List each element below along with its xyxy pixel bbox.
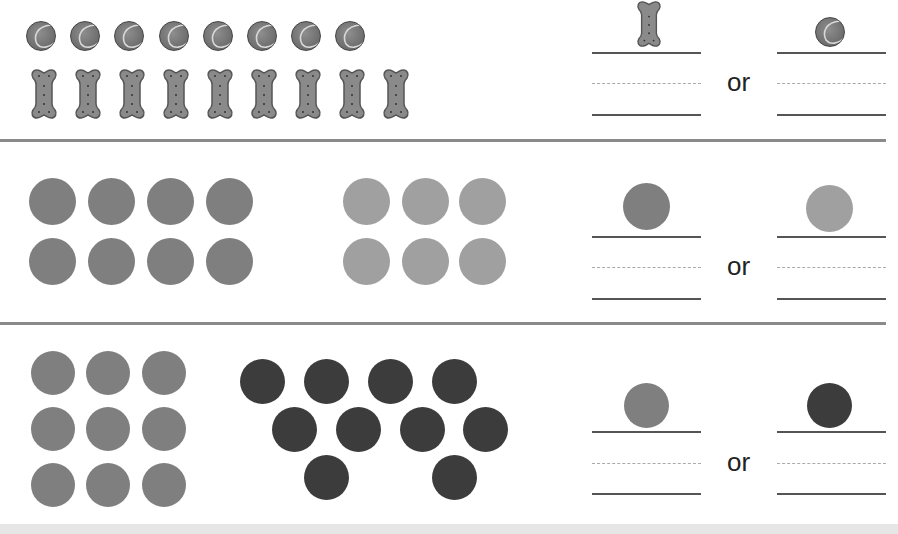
section-divider xyxy=(0,322,886,325)
dark-dot xyxy=(304,359,349,404)
medium-dot xyxy=(206,178,253,225)
dog-bone-icon xyxy=(635,0,663,48)
dog-bone-icon xyxy=(338,68,366,120)
dark-dot xyxy=(304,455,349,500)
answer-line-mid xyxy=(592,83,701,84)
answer-line-base[interactable] xyxy=(777,493,886,495)
answer-line-base[interactable] xyxy=(777,114,886,116)
dark-dot xyxy=(432,359,477,404)
answer-line-mid xyxy=(777,267,886,268)
tennis-ball-icon xyxy=(291,21,321,51)
answer-line-mid xyxy=(592,463,701,464)
light-dot xyxy=(402,178,449,225)
tennis-ball-icon xyxy=(335,21,365,51)
medium-dot xyxy=(29,178,76,225)
dog-bone-icon xyxy=(162,68,190,120)
answer-line-top xyxy=(777,52,886,54)
answer-line-top xyxy=(777,431,886,433)
dark-dot xyxy=(336,407,381,452)
tennis-ball-icon xyxy=(247,21,277,51)
answer-line-mid xyxy=(777,83,886,84)
light-dot xyxy=(343,238,390,285)
medium-dot xyxy=(142,463,186,507)
tennis-ball-icon xyxy=(114,21,144,51)
answer-line-top xyxy=(777,236,886,238)
or-label: or xyxy=(727,251,750,282)
dog-bone-icon xyxy=(206,68,234,120)
answer-line-mid xyxy=(592,267,701,268)
medium-dot xyxy=(206,238,253,285)
medium-dot xyxy=(147,238,194,285)
answer-line-base[interactable] xyxy=(777,298,886,300)
medium-dot xyxy=(88,178,135,225)
medium-dot xyxy=(623,183,670,230)
tennis-ball-icon xyxy=(815,17,845,47)
dog-bone-icon xyxy=(74,68,102,120)
or-label: or xyxy=(727,447,750,478)
dog-bone-icon xyxy=(250,68,278,120)
tennis-ball-icon xyxy=(70,21,100,51)
medium-dot xyxy=(147,178,194,225)
dark-dot xyxy=(807,383,852,428)
dark-dot xyxy=(240,359,285,404)
medium-dot xyxy=(624,383,669,428)
dog-bone-icon xyxy=(294,68,322,120)
tennis-ball-icon xyxy=(203,21,233,51)
medium-dot xyxy=(31,463,75,507)
medium-dot xyxy=(86,463,130,507)
answer-line-top xyxy=(592,236,701,238)
medium-dot xyxy=(86,351,130,395)
answer-line-base[interactable] xyxy=(592,114,701,116)
light-dot xyxy=(459,178,506,225)
dark-dot xyxy=(463,407,508,452)
dark-dot xyxy=(272,407,317,452)
answer-line-top xyxy=(592,431,701,433)
or-label: or xyxy=(727,67,750,98)
medium-dot xyxy=(142,351,186,395)
tennis-ball-icon xyxy=(159,21,189,51)
dark-dot xyxy=(400,407,445,452)
medium-dot xyxy=(31,407,75,451)
page-bottom-strip xyxy=(0,524,898,534)
light-dot xyxy=(402,238,449,285)
medium-dot xyxy=(88,238,135,285)
medium-dot xyxy=(86,407,130,451)
answer-line-base[interactable] xyxy=(592,298,701,300)
medium-dot xyxy=(31,351,75,395)
answer-line-base[interactable] xyxy=(592,493,701,495)
answer-line-top xyxy=(592,52,701,54)
dog-bone-icon xyxy=(30,68,58,120)
answer-line-mid xyxy=(777,463,886,464)
light-dot xyxy=(343,178,390,225)
light-dot xyxy=(806,185,853,232)
dark-dot xyxy=(368,359,413,404)
section-divider xyxy=(0,139,886,142)
dog-bone-icon xyxy=(118,68,146,120)
medium-dot xyxy=(142,407,186,451)
medium-dot xyxy=(29,238,76,285)
light-dot xyxy=(459,238,506,285)
tennis-ball-icon xyxy=(26,21,56,51)
dog-bone-icon xyxy=(382,68,410,120)
dark-dot xyxy=(432,455,477,500)
